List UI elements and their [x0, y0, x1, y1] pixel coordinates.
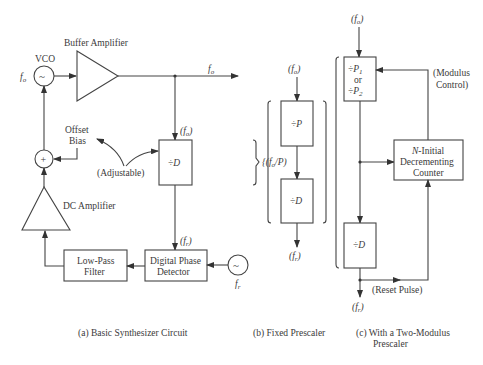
b-output-label: (fr): [289, 251, 301, 263]
adjustable-pointer-divider: [126, 151, 158, 166]
adjustable-pointer-bias: [97, 139, 124, 166]
b-inner-brace: [253, 140, 259, 185]
c-counter-label-2: Decrementing: [400, 157, 454, 167]
c-reset-to-counter-arrow: [398, 180, 428, 280]
caption-a: (a) Basic Synthesizer Circuit: [78, 328, 188, 339]
buffer-amplifier-triangle-icon: [77, 51, 118, 101]
dc-amplifier-label: DC Amplifier: [63, 201, 116, 211]
divider-input-label: (fo): [180, 126, 192, 138]
offset-bias-label-2: Bias: [69, 136, 86, 146]
c-modulus-control-arrow: [376, 70, 428, 140]
lpf-to-dcamp-arrow: [45, 231, 64, 266]
b-mid-freq-label: {(fo/P): [262, 157, 287, 169]
caption-c-1: (c) With a Two-Modulus: [356, 328, 450, 339]
offset-bias-arrow: [54, 148, 77, 159]
b-input-label: (fo): [288, 64, 300, 76]
c-input-label: (fo): [351, 14, 363, 26]
b-divide-by-p-label: ÷P: [291, 119, 302, 129]
c-divide-by-d-label: ÷D: [353, 240, 365, 250]
divide-by-d-label: ÷D: [168, 158, 180, 168]
c-output-label: (fr): [352, 302, 364, 314]
c-counter-label-1: N-Initial: [411, 146, 445, 156]
frequency-synthesizer-diagram: VCO ~ fo Buffer Amplifier fo (fo) ÷D (fr…: [0, 0, 483, 365]
buffer-amplifier: Buffer Amplifier: [64, 38, 129, 101]
vco-block: VCO ~ fo: [20, 54, 55, 86]
lpf-label-1: Low-Pass: [77, 256, 115, 266]
panel-a-basic-synthesizer: VCO ~ fo Buffer Amplifier fo (fo) ÷D (fr…: [20, 38, 248, 339]
pd-label-2: Detector: [157, 267, 191, 277]
caption-c-2: Prescaler: [373, 339, 409, 349]
c-prescaler-or: or: [354, 75, 363, 85]
vco-label: VCO: [35, 54, 55, 64]
adjustable-label: (Adjustable): [97, 168, 145, 179]
b-right-bracket: [323, 101, 326, 223]
pd-label-1: Digital Phase: [150, 256, 201, 266]
lpf-label-2: Filter: [84, 267, 105, 277]
summer-plus-label: +: [41, 154, 47, 165]
b-divide-by-d-label: ÷D: [290, 196, 302, 206]
caption-b: (b) Fixed Prescaler: [253, 328, 326, 339]
panel-c-two-modulus-prescaler: (fo) ÷P1 or ÷P2 (Modulus Control) N-Init…: [336, 14, 470, 349]
pd-input-label: (fr): [180, 236, 192, 248]
offset-bias-label-1: Offset: [65, 125, 89, 135]
c-counter-label-3: Counter: [413, 168, 444, 178]
c-reset-pulse-label: (Reset Pulse): [372, 285, 422, 296]
ref-sine-icon: ~: [233, 259, 239, 271]
ref-freq-label: fr: [235, 279, 241, 291]
buffer-amplifier-label: Buffer Amplifier: [64, 38, 129, 48]
c-left-bracket: [336, 57, 339, 268]
c-modulus-label-2: Control): [436, 80, 468, 91]
sine-wave-icon: ~: [39, 70, 45, 82]
vco-freq-label: fo: [20, 72, 27, 84]
panel-b-fixed-prescaler: (fo) ÷P {(fo/P) ÷D (fr) (b) Fixed Presca…: [253, 64, 326, 339]
output-fo-label: fo: [208, 64, 215, 76]
c-modulus-label-1: (Modulus: [433, 68, 470, 79]
